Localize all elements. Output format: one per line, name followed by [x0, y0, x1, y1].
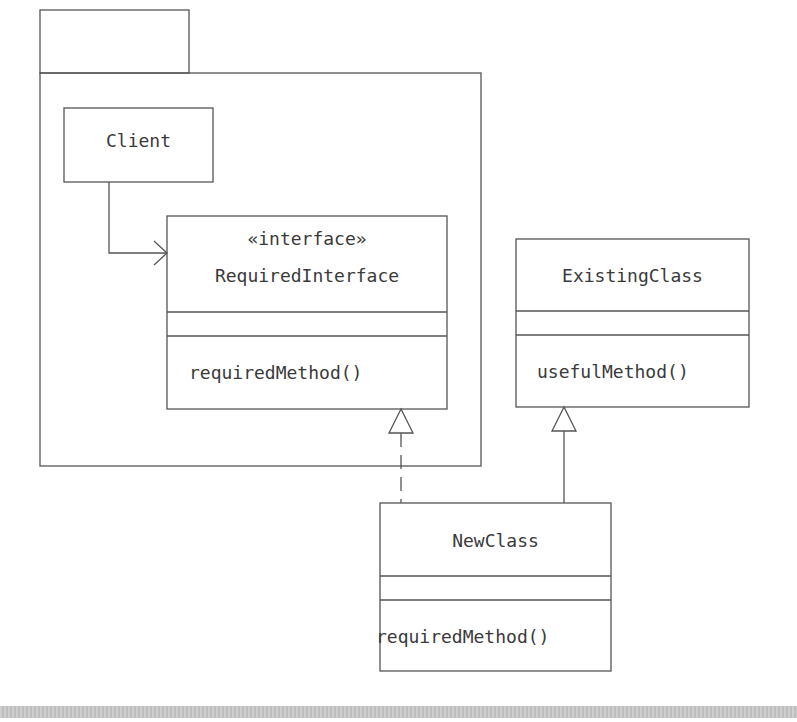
existing-class-name: ExistingClass — [516, 265, 749, 286]
association-arrow — [109, 182, 167, 253]
package-tab — [40, 10, 189, 73]
realization-arrowhead — [389, 409, 413, 433]
existing-class-method: usefulMethod() — [537, 361, 689, 382]
generalization-arrowhead — [552, 407, 576, 431]
client-class-name: Client — [64, 130, 213, 151]
new-class-method: requiredMethod() — [376, 626, 549, 647]
required-interface-name: RequiredInterface — [167, 265, 447, 286]
footer-bar — [0, 706, 797, 718]
interface-stereotype: «interface» — [167, 228, 447, 249]
new-class-name: NewClass — [380, 530, 611, 551]
required-interface-method: requiredMethod() — [189, 362, 362, 383]
